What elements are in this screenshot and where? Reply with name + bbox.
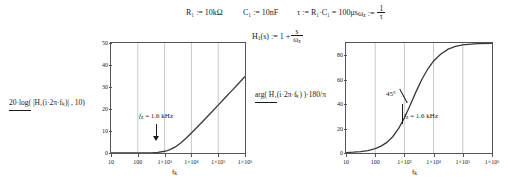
y-tick-label: 0 [105, 150, 108, 156]
magnitude-fz-arrow-head [153, 136, 159, 141]
phase-fz-annotation: fz = 1.6 kHz [404, 112, 438, 120]
y-tick-mark [344, 55, 347, 56]
x-tick-label: 100 [126, 159, 150, 166]
document-page: R₁ := 10kΩ C₁ := 10nF τ := R₁·C₁ = 100μs… [0, 0, 509, 185]
x-tick-label: 1×10⁵ [451, 159, 475, 166]
phase-plot-area [345, 42, 493, 154]
y-tick-label: 20 [337, 126, 343, 132]
x-tick-label: 1×10⁴ [179, 159, 203, 166]
x-tick-mark [375, 154, 376, 157]
phase-y-axis-label-rule [255, 102, 277, 103]
y-tick-mark [344, 129, 347, 130]
phase-fz-vertical-marker [402, 104, 403, 124]
magnitude-gridlines [138, 43, 218, 153]
phase-x-axis-label: fk [412, 168, 417, 176]
x-tick-mark [492, 154, 493, 157]
x-tick-mark [404, 154, 405, 157]
y-tick-label: 10 [102, 128, 108, 134]
phase-gridlines [375, 43, 463, 153]
y-tick-label: 40 [337, 101, 343, 107]
magnitude-bode-plot: 20·log( |H₁(i·2π·fₖ)| , 10) 01020304050 … [0, 0, 255, 185]
phase-x-tick-labels: 101001×10³1×10⁴1×10⁵1×10⁶ [345, 156, 493, 168]
x-tick-label: 10 [99, 159, 123, 166]
x-tick-label: 1×10⁵ [206, 159, 230, 166]
magnitude-plot-area [110, 42, 246, 154]
phase-y-axis-label: arg( H₁(i·2π·fₖ) )·180/π [255, 90, 339, 103]
y-tick-label: 50 [102, 40, 108, 46]
y-tick-mark [109, 87, 112, 88]
magnitude-curve-svg [111, 43, 245, 153]
y-tick-label: 0 [340, 150, 343, 156]
x-tick-mark [191, 154, 192, 157]
x-tick-label: 10 [334, 159, 358, 166]
phase-fz-value: = 1.6 kHz [408, 112, 438, 120]
y-tick-mark [344, 80, 347, 81]
x-tick-label: 1×10³ [153, 159, 177, 166]
x-tick-mark [138, 154, 139, 157]
x-tick-mark [111, 154, 112, 157]
phase-curve [346, 43, 492, 152]
y-tick-label: 30 [102, 84, 108, 90]
magnitude-y-axis-label-text: 20·log( |H₁(i·2π·fₖ)| , 10) [9, 98, 85, 107]
magnitude-x-axis-label-subscript: k [174, 170, 177, 176]
x-tick-mark [218, 154, 219, 157]
x-tick-label: 1×10⁶ [480, 159, 504, 166]
x-tick-label: 1×10³ [392, 159, 416, 166]
x-tick-mark [245, 154, 246, 157]
phase-45deg-annotation: 45° [386, 90, 396, 98]
x-tick-mark [463, 154, 464, 157]
y-tick-label: 20 [102, 106, 108, 112]
x-tick-mark [165, 154, 166, 157]
phase-bode-plot: arg( H₁(i·2π·fₖ) )·180/π 020406080 10100… [252, 0, 509, 185]
magnitude-y-axis-label-rule [9, 110, 31, 111]
magnitude-x-axis-label: fk [172, 168, 177, 176]
phase-curve-svg [346, 43, 492, 153]
phase-y-axis-label-text: arg( H₁(i·2π·fₖ) )·180/π [255, 90, 326, 99]
y-tick-mark [109, 43, 112, 44]
y-tick-mark [109, 65, 112, 66]
magnitude-x-tick-labels: 101001×10³1×10⁴1×10⁵1×10⁶ [110, 156, 246, 168]
magnitude-y-axis-label: 20·log( |H₁(i·2π·fₖ)| , 10) [9, 98, 95, 111]
y-tick-mark [109, 109, 112, 110]
x-tick-mark [346, 154, 347, 157]
magnitude-fz-annotation: fz = 1.6 kHz [139, 112, 173, 120]
magnitude-y-tick-labels: 01020304050 [96, 42, 108, 154]
y-tick-label: 40 [102, 62, 108, 68]
y-tick-label: 60 [337, 77, 343, 83]
y-tick-label: 80 [337, 52, 343, 58]
x-tick-mark [434, 154, 435, 157]
magnitude-curve [111, 77, 245, 153]
phase-y-tick-labels: 020406080 [331, 42, 343, 154]
phase-x-axis-label-subscript: k [414, 170, 417, 176]
magnitude-fz-value: = 1.6 kHz [143, 112, 173, 120]
y-tick-mark [109, 131, 112, 132]
x-tick-label: 1×10⁴ [422, 159, 446, 166]
y-tick-mark [344, 104, 347, 105]
x-tick-label: 100 [363, 159, 387, 166]
